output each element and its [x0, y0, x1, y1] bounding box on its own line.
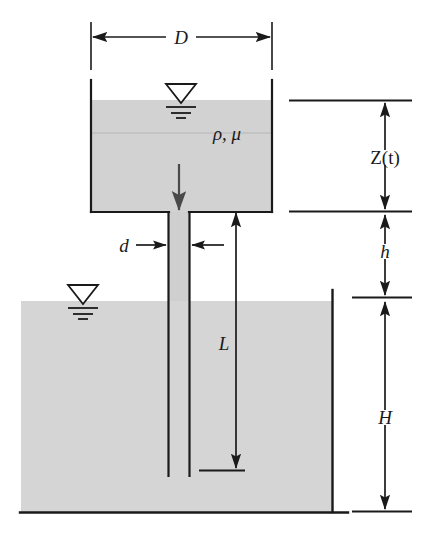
dimension-h-label: h	[380, 241, 390, 262]
dimension-Z: Z(t)	[289, 101, 412, 212]
fluid-mechanics-diagram: D ρ, μ d L Z(t)	[0, 0, 423, 533]
dimension-H: H	[352, 302, 412, 512]
fluid-properties-label: ρ, μ	[212, 123, 241, 144]
dimension-Z-label: Z(t)	[370, 147, 400, 169]
dimension-d-label: d	[119, 235, 129, 256]
dimension-D: D	[91, 22, 272, 70]
fluid-regions	[21, 100, 333, 512]
reservoir-fluid	[21, 301, 333, 512]
dimension-L-label: L	[218, 333, 230, 354]
upper-tank-fluid	[92, 100, 271, 212]
dimension-H-label: H	[377, 407, 393, 428]
dimension-h: h	[352, 215, 412, 298]
diagram-canvas: D ρ, μ d L Z(t)	[0, 0, 423, 533]
dimension-D-label: D	[173, 27, 188, 48]
